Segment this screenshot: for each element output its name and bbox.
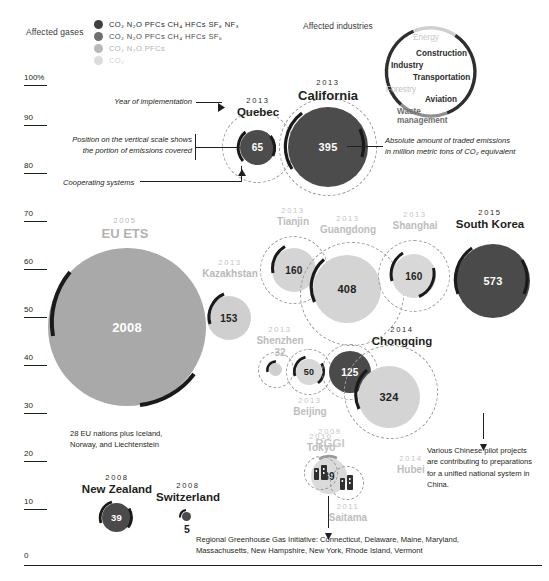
- legend-row: CO₂ N₂O PFCs: [94, 42, 239, 54]
- axis-tick-label: 70: [24, 209, 33, 218]
- axis-tick-label: 30: [24, 401, 33, 410]
- industry-aviation: Aviation: [425, 95, 457, 104]
- label-name-shenzhen: Shenzhen: [240, 335, 320, 346]
- legend-row: CO₂ N₂O PFCs CH₄ HFCs SF₆ NF₃: [94, 18, 239, 30]
- label-name-beijing: Beijing: [268, 406, 352, 417]
- axis-tick-mark: [24, 221, 47, 222]
- label-name-southkorea: South Korea: [435, 218, 545, 230]
- label-year-shenzhen: 2013: [240, 325, 320, 334]
- legend-gases-title: Affected gases: [26, 27, 83, 37]
- axis-tick-label: 100%: [24, 73, 44, 82]
- annotation-absolute-line1: Absolute amount of traded emissions: [385, 135, 549, 146]
- note-eu-line2: Norway, and Liechtenstein: [70, 439, 230, 450]
- label-name-switzerland: Switzerland: [130, 491, 246, 503]
- callout-line: [347, 146, 383, 147]
- label-year-switzerland: 2008: [138, 481, 238, 490]
- coverage-arc-newzealand: [97, 498, 137, 538]
- bubble-value-switzerland: 5: [148, 523, 226, 535]
- coverage-arc-shenzhen: [265, 359, 287, 381]
- note-rggi-line2: Massachusetts, New Hampshire, New York, …: [196, 545, 526, 556]
- legend-row-label: CO₂ N₂O PFCs CH₄ HFCs SF₆ NF₃: [109, 20, 239, 29]
- annotation-cooperating-systems: Cooperating systems: [63, 177, 134, 188]
- industry-industry: Industry: [391, 61, 423, 70]
- callout-line: [140, 181, 242, 182]
- coverage-arc-shanghai: [387, 249, 441, 303]
- callout-line: [196, 147, 240, 148]
- callout-arrow-up-icon: [238, 162, 246, 180]
- axis-tick-mark: [24, 125, 47, 126]
- annotation-vertical-scale-line1: Position on the vertical scale shows: [10, 134, 192, 145]
- callout-arrow-icon: [218, 98, 226, 116]
- note-eu-line1: 28 EU nations plus Iceland,: [70, 428, 230, 439]
- legend-swatch-icon: [94, 56, 103, 65]
- annotation-vertical-scale: Position on the vertical scale shows the…: [10, 134, 192, 156]
- label-year-chongqing: 2014: [352, 325, 452, 334]
- axis-tick-label: 60: [24, 257, 33, 266]
- annotation-year-of-implementation: Year of implementation: [60, 96, 192, 107]
- bubble-saitama[interactable]: [336, 471, 360, 499]
- coverage-arc-california: [282, 101, 374, 193]
- legend-swatch-icon: [94, 20, 103, 29]
- coverage-arc-hubei: [353, 361, 425, 433]
- legend-industries-title: Affected industries: [303, 21, 373, 31]
- note-china-line2: are contributing to preparations: [427, 456, 547, 467]
- axis-tick-label: 50: [24, 305, 33, 314]
- axis-tick-label: 80: [24, 161, 33, 170]
- axis-tick-mark: [24, 461, 47, 462]
- note-china-line4: China.: [427, 479, 547, 490]
- note-china-line3: for a unified national system in: [427, 468, 547, 479]
- label-year-southkorea: 2015: [440, 208, 540, 217]
- legend-gases-list: CO₂ N₂O PFCs CH₄ HFCs SF₆ NF₃ CO₂ N₂O PF…: [94, 18, 239, 66]
- industries-ring: Energy Construction Industry Transportat…: [383, 25, 479, 121]
- axis-baseline: [24, 565, 542, 566]
- legend-swatch-icon: [94, 44, 103, 53]
- annotation-absolute-amount: Absolute amount of traded emissions in m…: [385, 135, 549, 157]
- label-year-euets: 2005: [50, 216, 200, 225]
- coverage-arc-southkorea: [450, 238, 536, 324]
- label-name-euets: EU ETS: [50, 226, 200, 241]
- note-china: Various Chinese pilot projects are contr…: [427, 445, 547, 491]
- label-name-tokyo: Tokyo: [285, 442, 357, 453]
- axis-tick-mark: [24, 413, 47, 414]
- axis-tick-label: 90: [24, 113, 33, 122]
- legend-row-label: CO₂ N₂O PFCs: [109, 44, 165, 53]
- industry-transportation: Transportation: [413, 73, 470, 82]
- label-name-saitama: Saitama: [312, 512, 384, 523]
- industry-forestry: Forestry: [386, 85, 416, 94]
- legend-row: CO₂ N₂O PFCs CH₄ HFCs SF₆: [94, 30, 239, 42]
- infographic-canvas: Affected gases CO₂ N₂O PFCs CH₄ HFCs SF₆…: [0, 0, 549, 581]
- industry-energy: Energy: [413, 33, 439, 42]
- axis-tick-label: 0: [24, 551, 28, 560]
- legend-gases-title-wrap: Affected gases: [26, 21, 83, 39]
- callout-bracket: [195, 134, 196, 160]
- legend-row-label: CO₂: [109, 56, 124, 65]
- annotation-vertical-scale-line2: the portion of emissions covered: [10, 145, 192, 156]
- label-year-saitama: 2011: [312, 502, 384, 511]
- label-name-chongqing: Chongqing: [352, 335, 452, 347]
- label-year-california: 2013: [268, 78, 388, 87]
- note-rggi-line1: Regional Greenhouse Gas Initiative: Conn…: [196, 534, 526, 545]
- legend-swatch-icon: [94, 32, 103, 41]
- coverage-arc-guangdong: [308, 250, 386, 328]
- axis-tick-label: 20: [24, 449, 33, 458]
- note-eu-nations: 28 EU nations plus Iceland, Norway, and …: [70, 428, 230, 451]
- industry-waste-management: Waste management: [397, 107, 457, 125]
- axis-tick-mark: [24, 85, 47, 86]
- axis-tick-label: 10: [24, 497, 33, 506]
- axis-tick-mark: [24, 509, 47, 510]
- note-rggi: Regional Greenhouse Gas Initiative: Conn…: [196, 534, 526, 557]
- legend-row-label: CO₂ N₂O PFCs CH₄ HFCs SF₆: [109, 32, 222, 41]
- axis-tick-label: 40: [24, 353, 33, 362]
- legend-row: CO₂: [94, 54, 239, 66]
- annotation-absolute-line2: in million metric tons of CO₂ equivalent: [385, 146, 549, 157]
- building-icon: [336, 471, 360, 495]
- callout-line-china: [483, 413, 484, 439]
- axis-tick-mark: [24, 173, 47, 174]
- industry-construction: Construction: [416, 49, 467, 58]
- label-year-tokyo: 2010: [285, 432, 357, 441]
- note-china-line1: Various Chinese pilot projects: [427, 445, 547, 456]
